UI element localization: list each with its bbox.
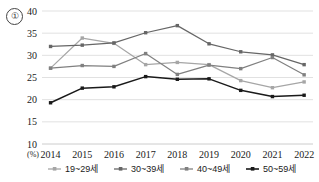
y-axis-tick-label: 10 — [27, 139, 37, 150]
data-point-marker — [302, 63, 305, 66]
y-axis-tick-label: 20 — [27, 94, 37, 105]
y-axis-tick-label: 15 — [27, 116, 37, 127]
data-point-marker — [207, 63, 210, 66]
legend-label-3: 40~49세 — [197, 164, 230, 174]
y-axis-tick-label: 40 — [27, 6, 37, 17]
data-point-marker — [112, 85, 115, 88]
legend-label-1: 19~29세 — [65, 164, 98, 174]
x-axis-tick-label: 2017 — [136, 149, 156, 160]
data-point-marker — [81, 43, 84, 46]
series-line-3 — [51, 54, 305, 75]
data-point-marker — [239, 89, 242, 92]
data-point-marker — [302, 94, 305, 97]
data-point-marker — [81, 36, 84, 39]
chart-screenshot: ① 10152025303540(%)201420152016201720182… — [0, 0, 319, 182]
series-line-2 — [51, 26, 305, 65]
data-point-marker — [302, 73, 305, 76]
data-point-marker — [302, 80, 305, 83]
x-axis-tick-label: 2022 — [294, 149, 314, 160]
legend-label-2: 30~39세 — [131, 164, 164, 174]
legend-swatch-marker — [53, 167, 57, 171]
data-point-marker — [112, 65, 115, 68]
data-point-marker — [239, 67, 242, 70]
axis-unit-label: (%) — [27, 150, 39, 159]
data-point-marker — [176, 24, 179, 27]
y-axis-tick-label: 25 — [27, 72, 37, 83]
data-point-marker — [81, 64, 84, 67]
x-axis-tick-label: 2020 — [231, 149, 251, 160]
data-point-marker — [176, 78, 179, 81]
data-point-marker — [81, 86, 84, 89]
data-point-marker — [144, 31, 147, 34]
legend-swatch-marker — [251, 167, 255, 171]
x-axis-tick-label: 2019 — [199, 149, 219, 160]
x-axis-tick-label: 2015 — [72, 149, 92, 160]
x-axis-tick-label: 2014 — [41, 149, 61, 160]
data-point-marker — [144, 52, 147, 55]
y-axis-tick-label: 35 — [27, 28, 37, 39]
data-point-marker — [144, 63, 147, 66]
data-point-marker — [176, 73, 179, 76]
data-point-marker — [239, 50, 242, 53]
data-point-marker — [207, 77, 210, 80]
data-point-marker — [49, 45, 52, 48]
y-axis-tick-label: 30 — [27, 50, 37, 61]
x-axis-tick-label: 2016 — [104, 149, 124, 160]
data-point-marker — [271, 56, 274, 59]
legend-swatch-marker — [185, 167, 189, 171]
legend-label-4: 50~59세 — [263, 164, 296, 174]
data-point-marker — [49, 101, 52, 104]
data-point-marker — [112, 41, 115, 44]
data-point-marker — [207, 42, 210, 45]
data-point-marker — [239, 79, 242, 82]
data-point-marker — [49, 66, 52, 69]
data-point-marker — [144, 75, 147, 78]
data-point-marker — [271, 86, 274, 89]
legend-swatch-marker — [119, 167, 123, 171]
data-point-marker — [271, 95, 274, 98]
chart-canvas: 10152025303540(%)20142015201620172018201… — [0, 0, 319, 182]
x-axis-tick-label: 2018 — [167, 149, 187, 160]
line-chart: 10152025303540(%)20142015201620172018201… — [0, 0, 319, 182]
data-point-marker — [176, 61, 179, 64]
x-axis-tick-label: 2021 — [262, 149, 282, 160]
